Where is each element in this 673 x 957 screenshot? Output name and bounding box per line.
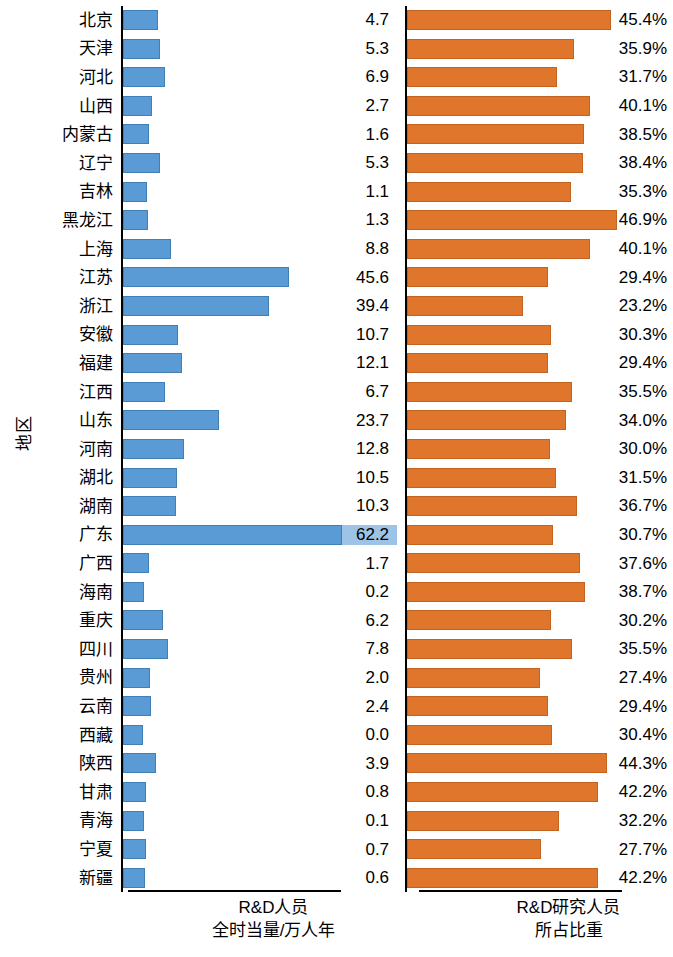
- category-label: 四川: [0, 641, 121, 658]
- left-panel: [121, 6, 322, 35]
- value-label-researcher-share: 29.4%: [597, 353, 673, 373]
- value-label-researcher-share: 29.4%: [597, 268, 673, 288]
- value-label-researcher-share: 38.7%: [597, 582, 673, 602]
- value-label-rd-personnel: 1.6: [323, 125, 397, 145]
- left-axis-caption-line2: 全时当量/万人年: [128, 920, 419, 943]
- value-label-rd-personnel: 10.3: [323, 496, 397, 516]
- value-label-rd-personnel: 12.8: [323, 439, 397, 459]
- category-label: 福建: [0, 355, 121, 372]
- right-panel: [405, 263, 597, 292]
- bar-researcher-share: [407, 725, 552, 745]
- category-label: 安徽: [0, 326, 121, 343]
- left-panel: [121, 578, 322, 607]
- left-panel: [121, 692, 322, 721]
- left-panel: [121, 63, 322, 92]
- bar-researcher-share: [407, 496, 577, 516]
- category-label: 海南: [0, 584, 121, 601]
- right-panel: [405, 292, 597, 321]
- bar-rd-personnel: [123, 839, 145, 859]
- value-label-researcher-share: 31.5%: [597, 468, 673, 488]
- bar-rd-personnel: [123, 39, 160, 59]
- bar-rd-personnel: [123, 668, 149, 688]
- bar-researcher-share: [407, 782, 598, 802]
- bar-rd-personnel: [123, 325, 177, 345]
- value-label-researcher-share: 44.3%: [597, 754, 673, 774]
- chart-row: 山东23.734.0%: [0, 406, 673, 435]
- chart-container: 地区 北京4.745.4%天津5.335.9%河北6.931.7%山西2.740…: [0, 0, 673, 957]
- category-label: 河南: [0, 441, 121, 458]
- value-label-researcher-share: 40.1%: [597, 96, 673, 116]
- category-label: 重庆: [0, 612, 121, 629]
- right-panel: [405, 35, 597, 64]
- bar-rd-personnel: [123, 210, 147, 230]
- value-label-researcher-share: 30.3%: [597, 325, 673, 345]
- value-label-researcher-share: 35.3%: [597, 182, 673, 202]
- bar-researcher-share: [407, 67, 557, 87]
- bar-rd-personnel: [123, 811, 143, 831]
- bar-researcher-share: [407, 439, 550, 459]
- category-label: 青海: [0, 812, 121, 829]
- right-panel: [405, 864, 597, 893]
- right-panel: [405, 206, 597, 235]
- bar-researcher-share: [407, 553, 580, 573]
- value-label-rd-personnel: 10.7: [323, 325, 397, 345]
- category-label: 黑龙江: [0, 212, 121, 229]
- chart-row: 福建12.129.4%: [0, 349, 673, 378]
- bar-researcher-share: [407, 325, 551, 345]
- category-label: 广西: [0, 555, 121, 572]
- value-label-rd-personnel: 45.6: [323, 268, 397, 288]
- left-panel: [121, 435, 322, 464]
- bar-researcher-share: [407, 124, 584, 144]
- value-label-researcher-share: 36.7%: [597, 496, 673, 516]
- right-panel: [405, 635, 597, 664]
- bar-researcher-share: [407, 296, 523, 316]
- value-label-researcher-share: 42.2%: [597, 868, 673, 888]
- bar-rd-personnel: [123, 868, 145, 888]
- value-label-researcher-share: 30.7%: [597, 525, 673, 545]
- value-label-researcher-share: 38.5%: [597, 125, 673, 145]
- value-label-rd-personnel: 6.7: [323, 382, 397, 402]
- chart-row: 浙江39.423.2%: [0, 292, 673, 321]
- value-label-researcher-share: 27.7%: [597, 840, 673, 860]
- bar-researcher-share: [407, 96, 590, 116]
- value-label-rd-personnel: 2.7: [323, 96, 397, 116]
- value-label-researcher-share: 29.4%: [597, 697, 673, 717]
- category-label: 吉林: [0, 183, 121, 200]
- bar-rd-personnel: [123, 753, 155, 773]
- bar-rd-personnel: [123, 10, 158, 30]
- bar-researcher-share: [407, 639, 572, 659]
- category-label: 江苏: [0, 269, 121, 286]
- right-axis-caption: R&D研究人员 所占比重: [427, 897, 673, 943]
- value-label-rd-personnel: 2.4: [323, 697, 397, 717]
- left-panel: [121, 378, 322, 407]
- chart-row: 陕西3.944.3%: [0, 749, 673, 778]
- bar-rd-personnel: [123, 153, 160, 173]
- value-label-rd-personnel: 12.1: [323, 353, 397, 373]
- value-label-rd-personnel: 1.7: [323, 554, 397, 574]
- right-panel: [405, 807, 597, 836]
- bar-researcher-share: [407, 382, 572, 402]
- category-label: 江西: [0, 384, 121, 401]
- chart-row: 辽宁5.338.4%: [0, 149, 673, 178]
- left-panel: [121, 606, 322, 635]
- left-axis-caption-line1: R&D人员: [128, 897, 419, 920]
- value-label-researcher-share: 35.5%: [597, 639, 673, 659]
- left-panel-baseline: [128, 890, 341, 892]
- right-panel: [405, 349, 597, 378]
- value-label-rd-personnel: 0.0: [323, 725, 397, 745]
- right-panel: [405, 178, 597, 207]
- right-panel: [405, 721, 597, 750]
- value-label-researcher-share: 40.1%: [597, 239, 673, 259]
- bar-researcher-share: [407, 696, 548, 716]
- bar-researcher-share: [407, 610, 551, 630]
- chart-row: 山西2.740.1%: [0, 92, 673, 121]
- chart-row: 西藏0.030.4%: [0, 721, 673, 750]
- value-label-researcher-share: 35.9%: [597, 39, 673, 59]
- value-label-researcher-share: 23.2%: [597, 296, 673, 316]
- left-panel: [121, 664, 322, 693]
- value-label-rd-personnel: 2.0: [323, 668, 397, 688]
- bar-researcher-share: [407, 525, 553, 545]
- category-label: 河北: [0, 69, 121, 86]
- left-panel: [121, 178, 322, 207]
- chart-row: 内蒙古1.638.5%: [0, 120, 673, 149]
